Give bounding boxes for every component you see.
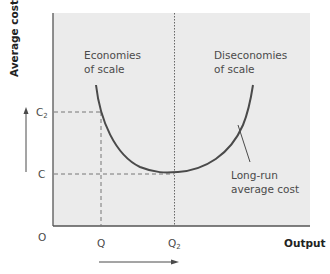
- lrac-label-line2: average cost: [231, 183, 299, 195]
- x-axis-label: Output: [284, 237, 325, 249]
- c-tick-label: C: [38, 168, 45, 180]
- q2-tick-label: Q2: [168, 237, 181, 251]
- right-arrow-icon: [99, 260, 179, 265]
- y-axis-label: Average cost: [8, 0, 20, 77]
- c2-tick-label: C2: [36, 106, 48, 120]
- lrac-chart: Economies of scale Diseconomies of scale…: [0, 0, 330, 274]
- diseconomies-label-line2: of scale: [214, 63, 255, 75]
- origin-label: O: [38, 231, 46, 243]
- up-arrow-icon: [24, 107, 29, 172]
- lrac-label-line1: Long-run: [231, 169, 278, 181]
- diseconomies-label-line1: Diseconomies: [214, 49, 287, 61]
- economies-label-line1: Economies: [84, 49, 141, 61]
- q-tick-label: Q: [97, 237, 105, 249]
- economies-label-line2: of scale: [84, 63, 125, 75]
